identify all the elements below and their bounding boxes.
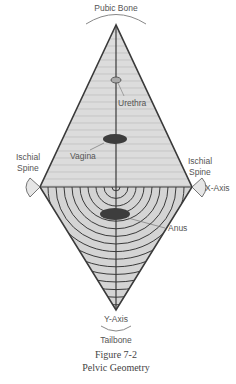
urethra-shape — [111, 77, 121, 83]
anus-shape — [100, 208, 130, 220]
figure-title: Pelvic Geometry — [82, 362, 149, 373]
figure-number: Figure 7-2 — [95, 349, 137, 360]
anus-label: Anus — [168, 223, 187, 233]
left-ischial-spine-shape — [26, 178, 40, 197]
right-spine-label-1: Ischial — [188, 156, 212, 166]
urethra-label: Urethra — [118, 98, 147, 108]
left-spine-label-1: Ischial — [16, 152, 40, 162]
vagina-label: Vagina — [70, 151, 96, 161]
pubic-bone-arc — [86, 15, 146, 25]
tailbone-label: Tailbone — [100, 335, 132, 345]
right-spine-label-2: Spine — [189, 167, 211, 177]
y-axis-label: Y-Axis — [104, 314, 128, 324]
right-ischial-spine-shape — [192, 178, 206, 197]
pelvic-geometry-diagram: Urethra Vagina Anus Ischial Spine Ischia… — [0, 0, 236, 384]
left-spine-label-2: Spine — [17, 163, 39, 173]
vagina-shape — [103, 134, 127, 144]
tailbone-arc — [101, 326, 131, 331]
x-axis-label: X-Axis — [205, 183, 230, 193]
pubic-bone-label: Pubic Bone — [94, 3, 138, 13]
